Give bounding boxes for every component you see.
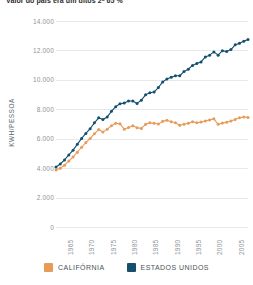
data-point	[67, 153, 70, 156]
data-point	[76, 151, 79, 154]
chart-legend: CALIFÓRNIAESTADOS UNIDOS	[0, 263, 253, 272]
data-point	[242, 115, 245, 118]
data-point	[101, 118, 104, 121]
data-point	[97, 128, 100, 131]
gridline	[56, 227, 248, 228]
data-point	[174, 121, 177, 124]
data-point	[110, 110, 113, 113]
data-point	[131, 100, 134, 103]
data-point	[200, 60, 203, 63]
data-point	[136, 102, 139, 105]
data-point	[178, 74, 181, 77]
data-point	[157, 123, 160, 126]
data-point	[80, 137, 83, 140]
data-point	[221, 122, 224, 125]
data-point	[178, 124, 181, 127]
data-point	[76, 143, 79, 146]
data-point	[84, 132, 87, 135]
data-point	[106, 128, 109, 131]
data-point	[93, 132, 96, 135]
y-axis: KWH/PESSOA 02.0004.0006.0008.00010.00012…	[0, 21, 54, 227]
data-point	[238, 42, 241, 45]
data-point	[144, 123, 147, 126]
data-point	[170, 76, 173, 79]
data-point	[157, 86, 160, 89]
x-axis-tick-label: 1990	[174, 240, 181, 255]
x-axis-tick-label: 1995	[195, 240, 202, 255]
data-point	[208, 118, 211, 121]
y-axis-title: KWH/PESSOA	[8, 98, 15, 147]
data-point	[229, 48, 232, 51]
y-axis-tick-label: 14.000	[33, 18, 54, 25]
series-layer	[56, 21, 248, 227]
legend-label: ESTADOS UNIDOS	[141, 264, 209, 271]
data-point	[204, 120, 207, 123]
legend-item[interactable]: CALIFÓRNIA	[44, 263, 105, 272]
data-point	[225, 121, 228, 124]
data-point	[153, 90, 156, 93]
legend-item[interactable]: ESTADOS UNIDOS	[127, 263, 209, 272]
data-point	[119, 122, 122, 125]
data-point	[170, 120, 173, 123]
data-point	[208, 54, 211, 57]
data-point	[229, 120, 232, 123]
data-point	[148, 121, 151, 124]
data-point	[55, 169, 58, 172]
data-point	[72, 155, 75, 158]
data-point	[183, 70, 186, 73]
y-axis-tick-label: 6.000	[37, 135, 54, 142]
data-point	[161, 80, 164, 83]
data-point	[55, 165, 58, 168]
data-point	[225, 50, 228, 53]
data-point	[191, 120, 194, 123]
y-axis-tick-label: 2.000	[37, 194, 54, 201]
x-axis-tick-label: 2005	[238, 240, 245, 255]
data-point	[234, 43, 237, 46]
data-point	[212, 50, 215, 53]
data-point	[101, 131, 104, 134]
data-point	[153, 122, 156, 125]
data-point	[127, 126, 130, 129]
data-point	[234, 118, 237, 121]
data-point	[195, 62, 198, 65]
data-point	[247, 116, 250, 119]
x-axis-tick-label: 1975	[110, 240, 117, 255]
data-point	[106, 115, 109, 118]
data-point	[63, 164, 66, 167]
data-point	[144, 93, 147, 96]
data-point	[89, 127, 92, 130]
data-point	[136, 126, 139, 129]
data-point	[187, 68, 190, 71]
data-point	[59, 167, 62, 170]
data-point	[165, 77, 168, 80]
data-point	[140, 127, 143, 130]
data-point	[165, 119, 168, 122]
data-point	[114, 122, 117, 125]
data-point	[204, 55, 207, 58]
data-point	[59, 163, 62, 166]
data-point	[140, 99, 143, 102]
data-point	[161, 120, 164, 123]
data-point	[217, 123, 220, 126]
y-axis-tick-label: 4.000	[37, 165, 54, 172]
x-axis-tick-label: 1965	[67, 240, 74, 255]
plot-area	[56, 21, 248, 227]
data-point	[187, 122, 190, 125]
data-point	[217, 54, 220, 57]
data-point	[148, 91, 151, 94]
data-point	[238, 116, 241, 119]
x-axis-tick-label: 1985	[152, 240, 159, 255]
data-point	[174, 74, 177, 77]
data-point	[123, 128, 126, 131]
y-axis-tick-label: 0	[50, 224, 54, 231]
x-axis-tick-label: 1970	[88, 240, 95, 255]
data-point	[63, 158, 66, 161]
chart-title: Valor do pais era um ditos 2ª 65 %	[6, 0, 251, 5]
data-point	[247, 38, 250, 41]
data-point	[195, 121, 198, 124]
data-point	[84, 141, 87, 144]
data-point	[93, 121, 96, 124]
data-point	[119, 102, 122, 105]
data-point	[221, 49, 224, 52]
data-point	[67, 160, 70, 163]
